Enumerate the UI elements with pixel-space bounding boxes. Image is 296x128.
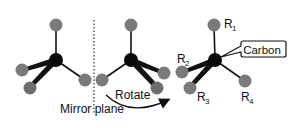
svg-text:3: 3	[205, 97, 210, 106]
label-r2: R 2	[177, 52, 190, 68]
molecule-mirror-image	[96, 19, 171, 95]
substituent-atom	[79, 74, 92, 87]
substituent-atom	[158, 67, 171, 80]
substituent-atom	[16, 64, 29, 77]
chirality-diagram: Carbon Mirror plane Rotate R 1 R 2 R 3 R…	[0, 0, 296, 128]
svg-text:1: 1	[232, 24, 237, 33]
molecule-rotated-labeled	[176, 19, 252, 95]
label-r1: R 1	[224, 17, 237, 33]
carbon-atom	[208, 53, 222, 67]
rotate-label: Rotate	[115, 88, 151, 102]
label-r3: R 3	[197, 90, 210, 106]
carbon-atom	[49, 53, 63, 67]
substituent-atom	[50, 19, 63, 32]
mirror-plane-label: Mirror plane	[60, 102, 124, 116]
substituent-atom	[24, 82, 37, 95]
substituent-atom-r3	[184, 82, 197, 95]
svg-text:2: 2	[185, 59, 190, 68]
substituent-atom	[151, 82, 164, 95]
substituent-atom-r4	[239, 75, 252, 88]
molecule-original	[16, 19, 92, 95]
substituent-atom	[96, 74, 109, 87]
carbon-label: Carbon	[243, 44, 281, 56]
svg-text:4: 4	[249, 97, 254, 106]
label-r4: R 4	[241, 90, 254, 106]
substituent-atom-r1	[208, 19, 221, 32]
carbon-atom	[124, 53, 138, 67]
substituent-atom	[125, 19, 138, 32]
